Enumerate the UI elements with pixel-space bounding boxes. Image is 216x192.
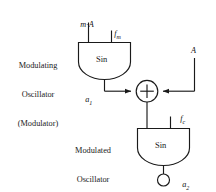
modulator-output-label: a1 <box>77 85 92 116</box>
modulator-group-label-line2: Oscillator <box>4 90 72 100</box>
carrier-output-label: a2 <box>174 170 189 192</box>
modulator-amplitude-input-label: m·A <box>72 10 94 39</box>
figure-canvas: m·A fm Modulating Oscillator (Modulator)… <box>0 0 216 192</box>
subscript-c: c <box>182 118 185 124</box>
modulator-sin-label: Sin <box>96 54 107 64</box>
carrier-group-label-line1: Modulated <box>53 146 133 156</box>
carrier-group-label-line2: Oscillator <box>53 175 133 185</box>
carrier-sin-label: Sin <box>155 140 166 150</box>
modulator-group-label-line1: Modulating <box>4 61 72 71</box>
carrier-group-label: Modulated Oscillator (Carrier) <box>53 126 133 192</box>
modulator-frequency-input-label: fm <box>106 19 121 50</box>
subscript-1: 1 <box>89 99 92 105</box>
carrier-frequency-input-label: fc <box>172 104 185 135</box>
output-terminal-circle <box>158 174 170 186</box>
subscript-2: 2 <box>186 184 189 190</box>
subscript-m: m <box>116 33 120 39</box>
summer-right-input-label: A <box>191 46 196 56</box>
